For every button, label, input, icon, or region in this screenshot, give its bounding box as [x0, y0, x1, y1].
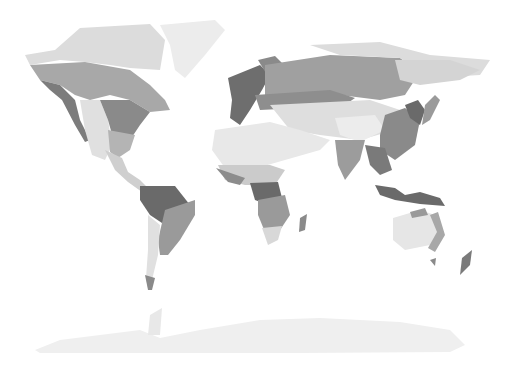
indonesia	[375, 185, 445, 206]
new-zealand	[460, 250, 472, 275]
patagonia	[145, 275, 155, 290]
tibet-plateau	[335, 115, 385, 142]
tasmania	[430, 258, 436, 266]
madagascar	[299, 214, 307, 232]
antarctic-peninsula	[148, 308, 162, 335]
south-america-andes	[146, 215, 160, 280]
antarctica	[35, 318, 465, 353]
central-america	[105, 150, 150, 192]
japan	[422, 95, 440, 125]
india	[335, 140, 365, 180]
world-map	[0, 0, 511, 371]
arctic-canada	[25, 24, 165, 70]
greenland	[160, 20, 225, 78]
southern-africa-savanna	[258, 195, 290, 232]
southern-africa-dry	[262, 226, 282, 245]
